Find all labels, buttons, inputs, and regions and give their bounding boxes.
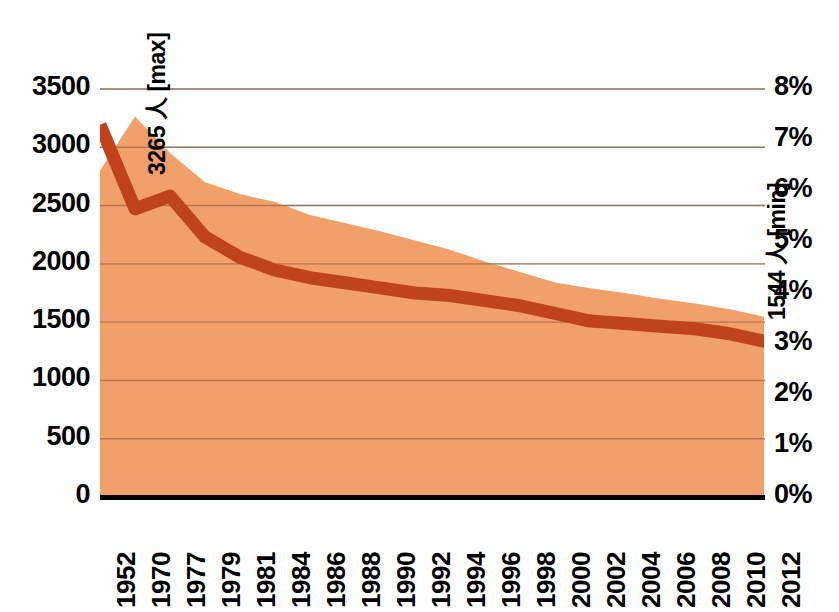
right-axis-tick-label: 8% xyxy=(774,71,812,102)
x-axis-tick-label: 1990 xyxy=(391,552,422,608)
left-axis-tick-label: 3000 xyxy=(32,129,90,160)
left-axis-tick-label: 1500 xyxy=(32,304,90,335)
max-annotation: 3265 人 [max] xyxy=(138,33,172,175)
x-axis-tick-label: 2000 xyxy=(566,552,597,608)
x-axis-tick-label: 1977 xyxy=(181,552,212,608)
min-annotation: 1544 人 [min] xyxy=(758,183,792,320)
x-axis-tick-label: 1988 xyxy=(356,552,387,608)
right-axis-tick-label: 2% xyxy=(774,377,812,408)
x-axis-tick-label: 2006 xyxy=(671,552,702,608)
x-axis-tick-label: 1996 xyxy=(496,552,527,608)
x-axis-tick-label: 1979 xyxy=(216,552,247,608)
right-axis-tick-label: 3% xyxy=(774,326,812,357)
right-axis-tick-label: 7% xyxy=(774,122,812,153)
left-axis-tick-label: 0 xyxy=(75,479,90,510)
x-axis-tick-label: 1970 xyxy=(146,552,177,608)
x-axis-tick-label: 1952 xyxy=(111,552,142,608)
x-axis-tick-label: 2002 xyxy=(601,552,632,608)
area-series-fill xyxy=(100,116,765,497)
x-axis-tick-label: 2012 xyxy=(776,552,807,608)
left-axis-tick-label: 3500 xyxy=(32,71,90,102)
x-axis-tick-label: 2004 xyxy=(636,552,667,608)
x-axis-tick-label: 1998 xyxy=(531,552,562,608)
left-axis-tick-label: 500 xyxy=(46,421,90,452)
x-axis-tick-label: 1986 xyxy=(321,552,352,608)
x-axis-tick-label: 1981 xyxy=(251,552,282,608)
right-axis-tick-label: 0% xyxy=(774,479,812,510)
x-axis-tick-label: 1984 xyxy=(286,552,317,608)
chart-figure: 3265 人 [max] 050010001500200025003000350… xyxy=(0,0,839,612)
x-axis-tick-label: 1994 xyxy=(461,552,492,608)
x-axis-tick-label: 2010 xyxy=(741,552,772,608)
plot-canvas xyxy=(0,0,839,612)
left-axis-tick-label: 2000 xyxy=(32,246,90,277)
left-axis-tick-label: 1000 xyxy=(32,362,90,393)
right-axis-tick-label: 1% xyxy=(774,428,812,459)
x-axis-tick-label: 2008 xyxy=(706,552,737,608)
left-axis-tick-label: 2500 xyxy=(32,188,90,219)
x-axis-tick-label: 1992 xyxy=(426,552,457,608)
